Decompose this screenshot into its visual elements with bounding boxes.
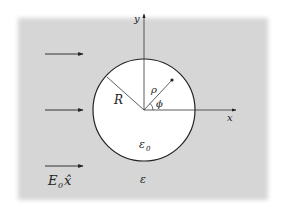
svg-text:x̂: x̂ <box>64 173 72 188</box>
y-axis-label: y <box>133 13 140 24</box>
svg-text:0: 0 <box>58 181 63 190</box>
x-axis-label: x <box>227 112 233 123</box>
phi-label: ϕ <box>156 98 163 109</box>
svg-text:E: E <box>47 173 58 188</box>
outer-permittivity-label: ε <box>140 173 146 186</box>
svg-text:0: 0 <box>146 145 151 153</box>
diagram-canvas: y x R ρ ϕ ε 0 ε E 0 x̂ <box>0 0 283 211</box>
svg-text:ε: ε <box>139 138 145 151</box>
radius-label: R <box>113 93 123 107</box>
point-marker <box>170 78 173 81</box>
rho-label: ρ <box>150 84 157 95</box>
